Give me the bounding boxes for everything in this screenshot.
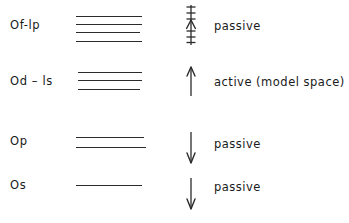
shell-model-level-diagram: Of-lp passive Od – ls bbox=[0, 0, 349, 223]
up-arrow-icon bbox=[183, 65, 199, 97]
occupancy-label-os: passive bbox=[214, 180, 261, 194]
level-line bbox=[76, 32, 140, 33]
shell-label-od-1s: Od – ls bbox=[10, 74, 53, 88]
multi-crossed-up-arrow-icon bbox=[183, 4, 199, 46]
level-line bbox=[76, 147, 146, 148]
level-line bbox=[76, 41, 142, 42]
level-line bbox=[76, 185, 142, 186]
level-line bbox=[76, 16, 142, 17]
level-line bbox=[78, 72, 142, 73]
down-arrow-icon bbox=[183, 177, 199, 211]
down-arrow-icon bbox=[183, 131, 199, 165]
shell-label-os: Os bbox=[10, 178, 26, 192]
level-line bbox=[78, 80, 142, 81]
level-line bbox=[78, 89, 140, 90]
level-line bbox=[76, 24, 142, 25]
occupancy-label-od-1s: active (model space) bbox=[214, 75, 345, 89]
occupancy-label-op: passive bbox=[214, 137, 261, 151]
level-line bbox=[76, 137, 144, 138]
shell-label-of-1p: Of-lp bbox=[10, 18, 40, 32]
occupancy-label-of-1p: passive bbox=[214, 19, 261, 33]
shell-label-op: Op bbox=[10, 134, 28, 148]
